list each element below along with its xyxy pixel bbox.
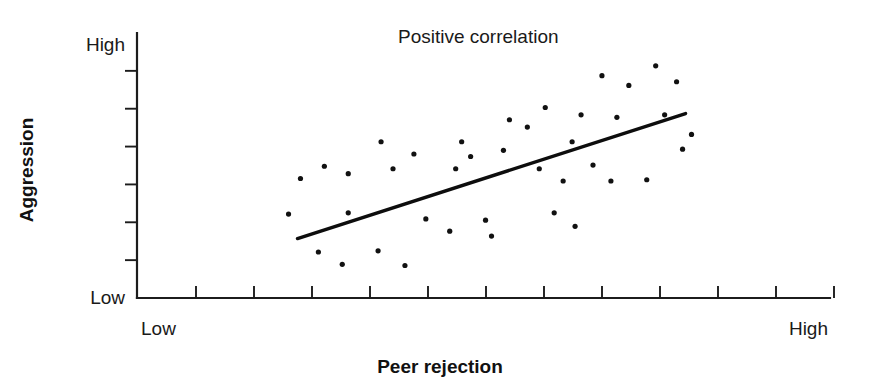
data-point — [561, 178, 566, 183]
data-point — [570, 139, 575, 144]
data-point — [543, 105, 548, 110]
data-point — [662, 112, 667, 117]
plot-title: Positive correlation — [398, 26, 559, 47]
data-point — [489, 234, 494, 239]
scatter-plot-svg: Positive correlation High Low Low High P… — [0, 0, 874, 392]
data-point — [590, 162, 595, 167]
data-point — [375, 248, 380, 253]
data-point — [322, 164, 327, 169]
data-point — [537, 166, 542, 171]
data-point — [483, 218, 488, 223]
data-point — [447, 229, 452, 234]
x-axis-low-label: Low — [141, 318, 176, 339]
data-point — [653, 63, 658, 68]
data-point — [572, 224, 577, 229]
data-point — [423, 216, 428, 221]
data-point — [459, 139, 464, 144]
data-point — [468, 154, 473, 159]
data-point — [316, 249, 321, 254]
data-point — [346, 171, 351, 176]
data-point — [390, 166, 395, 171]
data-point — [411, 151, 416, 156]
y-axis-high-label: High — [86, 34, 125, 55]
data-point — [599, 73, 604, 78]
x-axis-title: Peer rejection — [377, 356, 503, 377]
data-point — [298, 176, 303, 181]
data-point — [552, 210, 557, 215]
data-point — [626, 83, 631, 88]
data-point — [340, 262, 345, 267]
data-point — [674, 79, 679, 84]
data-point — [644, 177, 649, 182]
scatter-plot-figure: Positive correlation High Low Low High P… — [0, 0, 874, 392]
data-point — [346, 210, 351, 215]
data-point — [578, 112, 583, 117]
data-point — [680, 147, 685, 152]
x-axis-high-label: High — [789, 318, 828, 339]
data-point — [402, 263, 407, 268]
y-axis-low-label: Low — [90, 287, 125, 308]
data-point — [453, 166, 458, 171]
data-point — [286, 211, 291, 216]
data-point — [507, 117, 512, 122]
data-point — [378, 139, 383, 144]
data-point — [689, 132, 694, 137]
figure-background — [0, 0, 874, 392]
data-point — [614, 115, 619, 120]
y-axis-title: Aggression — [16, 118, 37, 223]
data-point — [501, 148, 506, 153]
data-point — [525, 124, 530, 129]
data-point — [608, 178, 613, 183]
